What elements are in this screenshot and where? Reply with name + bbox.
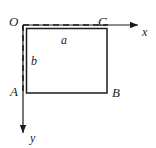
figure-canvas (0, 0, 156, 148)
y-axis-arrowhead (20, 125, 26, 133)
x-axis (23, 22, 138, 28)
y-axis-label: y (30, 132, 35, 144)
vertex-label-a: A (10, 85, 18, 98)
side-label-a: a (61, 34, 67, 46)
x-axis-label: x (142, 26, 147, 38)
x-axis-arrowhead (130, 22, 138, 28)
vertex-label-b: B (112, 86, 120, 99)
side-label-b: b (31, 55, 37, 67)
geometry-figure: O C A B a b x y (0, 0, 156, 148)
vertex-label-c: C (98, 15, 107, 28)
vertex-label-o: O (9, 15, 18, 28)
